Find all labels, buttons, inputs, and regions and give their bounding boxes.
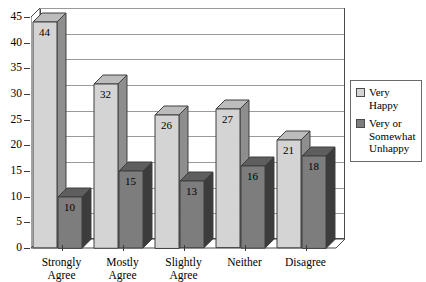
y-tick-label: 5 <box>16 216 22 227</box>
x-tick-label: Neither <box>214 256 275 269</box>
y-tick-label: 20 <box>11 139 23 150</box>
bar <box>216 109 240 248</box>
bar-value-label: 44 <box>33 27 57 38</box>
legend-item-very-or-somewhat-unhappy: Very or Somewhat Unhappy <box>356 117 417 155</box>
bar-value-label: 32 <box>94 89 118 100</box>
y-tick-mark <box>24 17 30 18</box>
y-tick-mark <box>24 222 30 223</box>
y-tick-mark <box>24 197 30 198</box>
bar-value-label: 27 <box>216 114 240 125</box>
x-tick-label: Strongly Agree <box>31 256 92 282</box>
chart-legend: Very Happy Very or Somewhat Unhappy <box>350 80 422 162</box>
bar <box>94 84 118 248</box>
legend-swatch-icon-1 <box>356 119 365 128</box>
legend-label-0: Very Happy <box>369 86 417 111</box>
legend-item-very-happy: Very Happy <box>356 86 417 111</box>
y-tick-label: 10 <box>11 191 23 202</box>
bar-value-label: 18 <box>302 161 326 172</box>
y-tick-label: 45 <box>11 11 23 22</box>
y-tick-mark <box>24 43 30 44</box>
x-tick-mark <box>184 245 185 251</box>
x-tick-label: Mostly Agree <box>92 256 153 282</box>
y-tick-mark <box>24 68 30 69</box>
y-tick-label: 15 <box>11 165 23 176</box>
x-tick-mark <box>62 245 63 251</box>
bar-value-label: 26 <box>155 120 179 131</box>
bar-value-label: 21 <box>277 145 301 156</box>
y-tick-mark <box>24 171 30 172</box>
x-tick-mark <box>245 245 246 251</box>
y-tick-mark <box>24 248 30 249</box>
x-axis: Strongly AgreeMostly AgreeSlightly Agree… <box>31 252 345 282</box>
x-tick-label: Disagree <box>275 256 336 269</box>
bar-value-label: 15 <box>119 176 143 187</box>
bars-layer: 44103215261327162118 <box>31 8 345 252</box>
bar-value-label: 16 <box>241 171 265 182</box>
y-tick-label: 0 <box>16 242 22 253</box>
legend-swatch-icon-0 <box>356 88 365 97</box>
bar <box>277 140 301 248</box>
y-tick-mark <box>24 94 30 95</box>
y-tick-label: 25 <box>11 114 23 125</box>
x-tick-mark <box>306 245 307 251</box>
bar-chart: 051015202530354045 44103215261327162118 … <box>0 0 426 282</box>
legend-label-1: Very or Somewhat Unhappy <box>369 117 417 155</box>
bar-value-label: 13 <box>180 186 204 197</box>
bar-3d-shape <box>180 172 215 250</box>
y-tick-label: 30 <box>11 88 23 99</box>
bar <box>155 115 179 248</box>
y-axis: 051015202530354045 <box>0 0 30 282</box>
x-tick-mark <box>123 245 124 251</box>
y-tick-label: 35 <box>11 62 23 73</box>
bar-3d-shape <box>58 188 93 250</box>
y-tick-mark <box>24 145 30 146</box>
y-tick-mark <box>24 120 30 121</box>
y-tick-label: 40 <box>11 37 23 48</box>
bar-value-label: 10 <box>58 202 82 213</box>
x-tick-label: Slightly Agree <box>153 256 214 282</box>
bar <box>33 22 57 248</box>
